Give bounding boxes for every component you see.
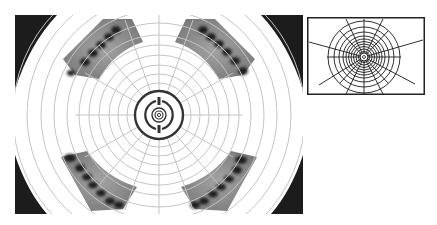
schematic-inset: Schematic radial grid [307,17,425,95]
polar-grid-svg [15,15,303,214]
schematic-grid-svg [307,17,425,95]
polar-grid-photo: Polar grid photograph [15,15,303,214]
